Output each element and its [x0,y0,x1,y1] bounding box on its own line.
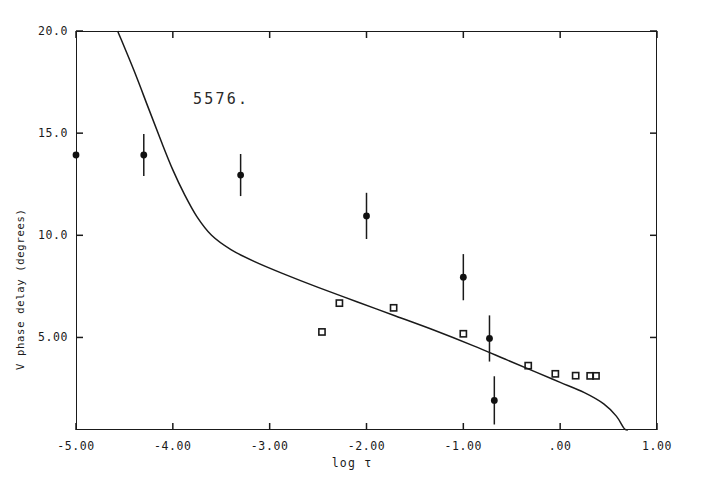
x-tick-label: -5.00 [57,439,95,453]
annotation-label: 5576. [193,90,249,108]
x-tick-label: -1.00 [445,439,483,453]
x-tick-label: -3.00 [251,439,289,453]
x-tick-label: -2.00 [348,439,386,453]
x-tick-label: .00 [549,439,572,453]
y-tick-label: 15.0 [14,126,68,140]
chart-figure: 5.0010.015.020.0 -5.00-4.00-3.00-2.00-1.… [0,0,704,487]
x-tick-label: -4.00 [154,439,192,453]
y-tick-label: 20.0 [14,24,68,38]
x-tick-label: 1.00 [642,439,672,453]
x-axis-title: log τ [0,456,704,470]
plot-frame [76,31,657,430]
y-axis-title: V phase delay (degrees) [14,150,26,370]
